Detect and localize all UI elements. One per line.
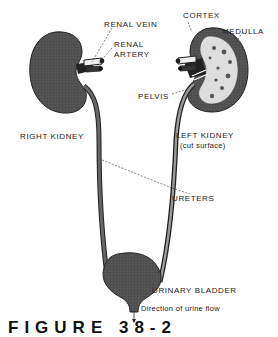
label-renal-artery-line1: RENAL bbox=[114, 40, 144, 49]
label-cortex: CORTEX bbox=[183, 11, 220, 20]
label-medulla: MEDULLA bbox=[222, 27, 264, 36]
figure-caption: FIGURE 38-2 bbox=[8, 318, 177, 337]
label-renal-vein: RENAL VEIN bbox=[104, 20, 157, 29]
label-cut-surface: (cut surface) bbox=[180, 141, 226, 150]
label-urinary-bladder: URINARY BLADDER bbox=[152, 286, 237, 295]
label-right-kidney: RIGHT KIDNEY bbox=[20, 132, 84, 141]
label-ureters: URETERS bbox=[172, 194, 214, 203]
left-kidney bbox=[176, 28, 248, 112]
label-left-kidney: LEFT KIDNEY bbox=[176, 131, 234, 140]
label-urine-flow: Direction of urine flow bbox=[141, 304, 220, 313]
label-renal-artery-line2: ARTERY bbox=[114, 50, 150, 59]
label-pelvis: PELVIS bbox=[138, 92, 169, 101]
